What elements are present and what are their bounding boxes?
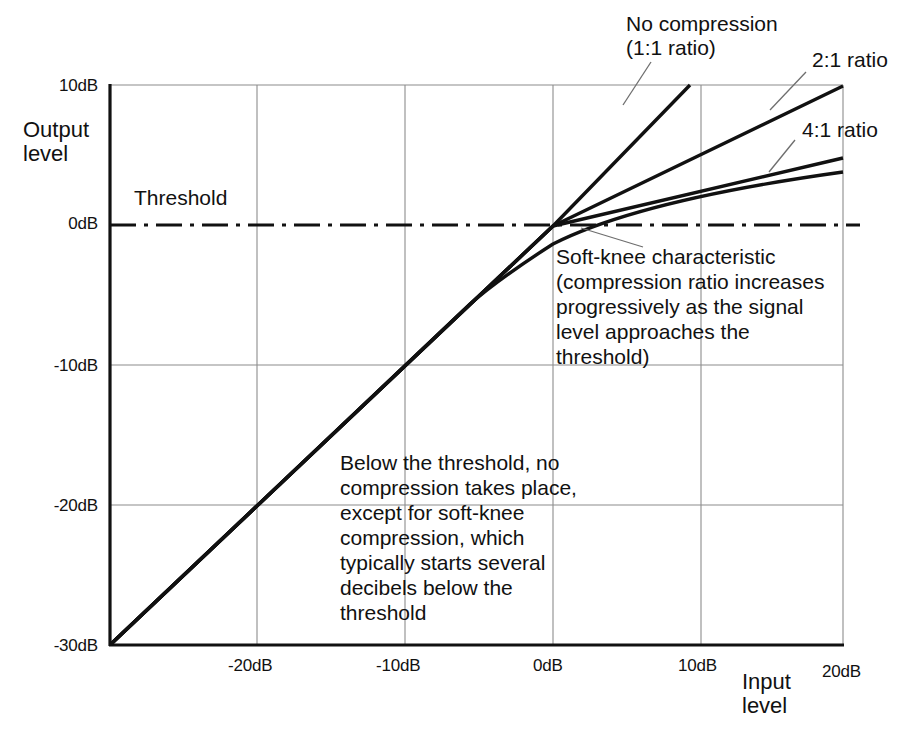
y-tick-label--10db: -10dB	[18, 356, 98, 375]
annotation-no-compression-line1: No compression	[626, 12, 778, 36]
x-tick-label-0db: 0dB	[533, 656, 563, 675]
x-axis-title-line1: Input	[742, 670, 791, 694]
annotation-below-threshold-line6: decibels below the	[340, 575, 513, 601]
annotation-below-threshold-line1: Below the threshold, no	[340, 450, 559, 476]
y-axis-title-line1: Output	[23, 118, 89, 142]
x-axis-title-line2: level	[742, 694, 787, 718]
annotation-soft-knee-line5: threshold)	[556, 344, 649, 370]
leader-ratio-2-1	[770, 72, 806, 110]
annotation-soft-knee-line2: (compression ratio increases	[556, 269, 824, 295]
x-tick-label--20db: -20dB	[228, 656, 272, 675]
annotation-below-threshold-line7: threshold	[340, 600, 426, 626]
y-axis-title-line2: level	[23, 142, 68, 166]
threshold-label: Threshold	[134, 186, 227, 210]
annotation-below-threshold-line4: compression, which	[340, 525, 524, 551]
annotation-below-threshold-line2: compression takes place,	[340, 475, 577, 501]
x-tick-label-20db: 20dB	[822, 662, 861, 681]
y-tick-label--30db: -30dB	[18, 636, 98, 655]
annotation-soft-knee-line4: level approaches the	[556, 319, 750, 345]
annotation-below-threshold-line3: except for soft-knee	[340, 500, 524, 526]
annotation-no-compression-line2: (1:1 ratio)	[626, 36, 716, 60]
annotation-soft-knee-line3: progressively as the signal	[556, 294, 803, 320]
annotation-below-threshold-line5: typically starts several	[340, 550, 545, 576]
y-tick-label--20db: -20dB	[18, 496, 98, 515]
y-tick-label-0db: 0dB	[18, 214, 98, 233]
chart-canvas	[0, 0, 922, 736]
x-tick-label--10db: -10dB	[376, 656, 420, 675]
annotation-ratio-4-1: 4:1 ratio	[802, 118, 878, 142]
compressor-transfer-chart: 10dB 0dB -10dB -20dB -30dB -20dB -10dB 0…	[0, 0, 922, 736]
x-tick-label-10db: 10dB	[678, 656, 717, 675]
annotation-ratio-2-1: 2:1 ratio	[812, 48, 888, 72]
leader-ratio-4-1	[769, 140, 795, 172]
leader-no-compression	[623, 62, 651, 105]
y-tick-label-10db: 10dB	[18, 76, 98, 95]
annotation-soft-knee-line1: Soft-knee characteristic	[556, 244, 775, 270]
